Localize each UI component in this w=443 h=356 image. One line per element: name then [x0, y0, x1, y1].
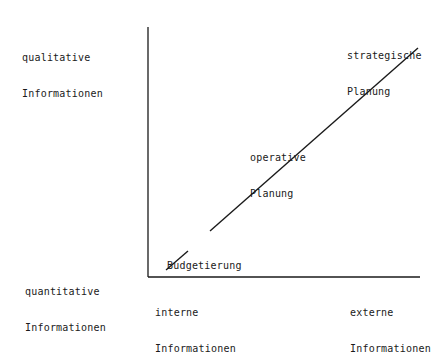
- point-label-operative-line1: operative: [250, 152, 306, 164]
- y-axis-top-label-line2: Informationen: [22, 88, 103, 100]
- y-axis-top-label-line1: qualitative: [22, 52, 103, 64]
- x-axis-left-label-line1: interne: [155, 307, 236, 319]
- point-label-strategische-planung: strategische Planung: [347, 26, 422, 122]
- y-axis-top-label: qualitative Informationen: [22, 28, 103, 124]
- point-label-budgetierung: Budgetierung: [167, 236, 242, 296]
- x-axis-right-label-line1: externe: [350, 307, 431, 319]
- point-label-strategische-line1: strategische: [347, 50, 422, 62]
- x-axis-right-label-line2: Informationen: [350, 343, 431, 355]
- point-label-operative-line2: Planung: [250, 188, 306, 200]
- x-axis-left-label-line2: Informationen: [155, 343, 236, 355]
- point-label-strategische-line2: Planung: [347, 86, 422, 98]
- y-axis-bottom-label: quantitative Informationen: [25, 262, 106, 356]
- point-label-operative-planung: operative Planung: [250, 128, 306, 224]
- x-axis-right-label: externe Informationen: [350, 283, 431, 356]
- y-axis-bottom-label-line2: Informationen: [25, 322, 106, 334]
- point-label-budgetierung-text: Budgetierung: [167, 260, 242, 272]
- y-axis-bottom-label-line1: quantitative: [25, 286, 106, 298]
